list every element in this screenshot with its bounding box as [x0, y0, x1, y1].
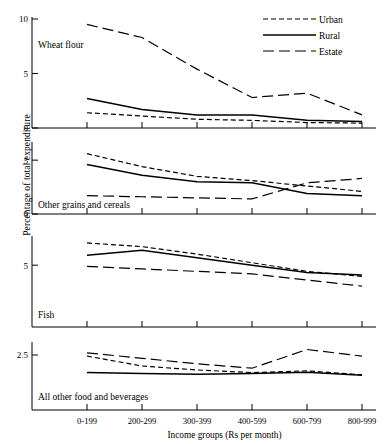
series-line-estate — [87, 266, 362, 286]
series-line-rural — [87, 372, 362, 375]
series-line-rural — [87, 164, 362, 195]
legend-label-urban: Urban — [319, 15, 343, 25]
series-line-estate — [87, 350, 362, 369]
series-line-urban — [87, 243, 362, 276]
series-line-rural — [87, 99, 362, 122]
x-tick-label: 800-999 — [348, 416, 377, 426]
x-tick-label: 200-299 — [128, 416, 157, 426]
x-tick-label: 300-399 — [183, 416, 212, 426]
y-tick-label: 10 — [19, 14, 29, 24]
x-tick-label: 400-599 — [238, 416, 267, 426]
legend-label-rural: Rural — [319, 31, 340, 41]
series-line-rural — [87, 250, 362, 275]
x-tick-label: 600-799 — [293, 416, 322, 426]
y-axis-title: Percentage of total expenditure — [22, 90, 32, 260]
panel-caption-3: All other food and beverages — [38, 392, 149, 402]
x-axis-title: Income groups (Rs per month) — [167, 430, 281, 441]
y-tick-label: 5 — [24, 261, 29, 271]
y-tick-label: 5 — [24, 69, 29, 79]
panel-caption-0: Wheat flour — [38, 40, 84, 50]
legend-label-estate: Estate — [319, 47, 342, 57]
panel-caption-1: Other grains and cereals — [38, 200, 130, 210]
panel-caption-2: Fish — [38, 310, 55, 320]
x-tick-label: 0-199 — [77, 416, 97, 426]
chart-canvas: 0510Wheat flour05Other grains and cereal… — [0, 0, 388, 444]
chart-figure: Percentage of total expenditure 0510Whea… — [0, 0, 388, 444]
y-tick-label: 2.5 — [17, 350, 29, 360]
